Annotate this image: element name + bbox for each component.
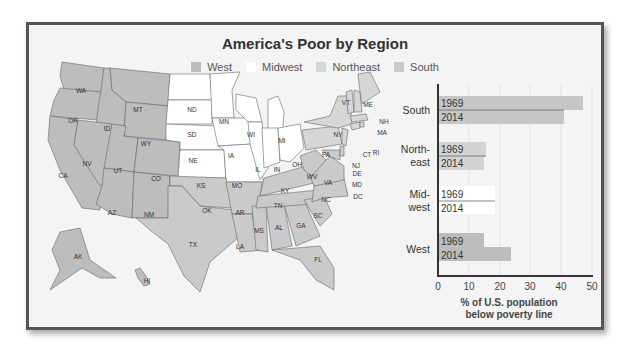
svg-text:2014: 2014 bbox=[441, 250, 464, 261]
svg-text:20: 20 bbox=[494, 281, 506, 292]
svg-text:10: 10 bbox=[463, 281, 475, 292]
category-northeast-1: North- bbox=[401, 143, 431, 155]
category-west: West bbox=[406, 243, 430, 255]
svg-text:1969: 1969 bbox=[441, 144, 464, 155]
category-midwest-1: Mid- bbox=[410, 188, 431, 200]
x-axis-label-line2: below poverty line bbox=[465, 309, 553, 320]
svg-text:1969: 1969 bbox=[441, 236, 464, 247]
category-labels: South North- east Mid- west West bbox=[401, 104, 431, 255]
svg-text:30: 30 bbox=[524, 281, 536, 292]
svg-text:2014: 2014 bbox=[441, 112, 464, 123]
svg-text:0: 0 bbox=[435, 281, 441, 292]
category-northeast-2: east bbox=[410, 156, 430, 168]
x-ticks: 0 10 20 30 40 50 bbox=[435, 281, 598, 292]
svg-text:50: 50 bbox=[586, 281, 598, 292]
svg-text:2014: 2014 bbox=[441, 203, 464, 214]
category-south: South bbox=[403, 104, 431, 116]
svg-text:1969: 1969 bbox=[441, 98, 464, 109]
category-midwest-2: west bbox=[407, 201, 430, 213]
svg-text:1969: 1969 bbox=[441, 189, 464, 200]
bar-year-labels: 1969 2014 1969 2014 1969 2014 1969 2014 bbox=[441, 98, 464, 261]
svg-text:40: 40 bbox=[555, 281, 567, 292]
x-axis-label-line1: % of U.S. population bbox=[460, 297, 557, 308]
svg-text:2014: 2014 bbox=[441, 158, 464, 169]
bar-chart: 1969 2014 1969 2014 1969 2014 1969 2014 … bbox=[0, 0, 632, 352]
